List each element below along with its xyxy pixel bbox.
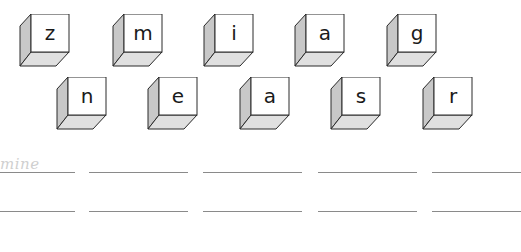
cube-letter: r bbox=[434, 77, 472, 115]
letter-cube-z: z bbox=[19, 14, 71, 68]
letter-cube-s: s bbox=[330, 77, 382, 131]
answer-line[interactable] bbox=[318, 172, 417, 173]
letter-cube-n: n bbox=[56, 77, 108, 131]
example-answer: mine bbox=[0, 155, 40, 173]
cube-letter: g bbox=[398, 14, 436, 52]
cube-letter: i bbox=[215, 14, 253, 52]
answer-line[interactable] bbox=[432, 211, 521, 212]
letter-cube-e: e bbox=[147, 77, 199, 131]
answer-line[interactable] bbox=[0, 172, 75, 173]
cube-letter: e bbox=[159, 77, 197, 115]
cube-letter: a bbox=[251, 77, 289, 115]
answer-line[interactable] bbox=[89, 211, 188, 212]
letter-cube-m: m bbox=[112, 14, 164, 68]
letter-cube-a: a bbox=[239, 77, 291, 131]
answer-line[interactable] bbox=[318, 211, 417, 212]
letter-cube-g: g bbox=[386, 14, 438, 68]
cube-letter: a bbox=[306, 14, 344, 52]
letter-cube-i: i bbox=[203, 14, 255, 68]
answer-line[interactable] bbox=[0, 211, 75, 212]
letter-cube-a: a bbox=[294, 14, 346, 68]
cube-letter: s bbox=[342, 77, 380, 115]
cube-letter: m bbox=[124, 14, 162, 52]
cube-letter: z bbox=[31, 14, 69, 52]
answer-line[interactable] bbox=[432, 172, 521, 173]
letter-cube-r: r bbox=[422, 77, 474, 131]
answer-line[interactable] bbox=[203, 211, 302, 212]
cube-letter: n bbox=[68, 77, 106, 115]
answer-line[interactable] bbox=[203, 172, 302, 173]
answer-line[interactable] bbox=[89, 172, 188, 173]
